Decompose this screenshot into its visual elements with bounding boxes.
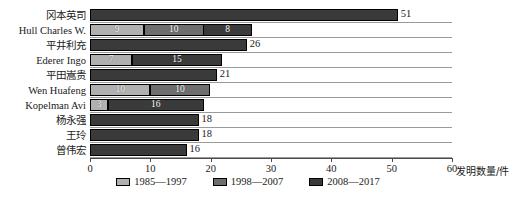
x-axis-tick (150, 158, 151, 162)
bar-row: 18 (90, 113, 452, 128)
category-label: Hull Charles W. (0, 23, 86, 38)
bar-segment[interactable] (90, 129, 199, 141)
stacked-bar[interactable]: 715 (90, 54, 222, 66)
bar-segment[interactable]: 7 (90, 54, 132, 66)
x-axis-tick (271, 158, 272, 162)
bar-segment[interactable] (90, 69, 217, 81)
bar-segment[interactable]: 15 (132, 54, 223, 66)
category-label: Ederer Ingo (0, 53, 86, 68)
bar-row: 26 (90, 38, 452, 53)
segment-value-label: 9 (115, 25, 120, 35)
x-axis-tick-label: 0 (87, 163, 92, 174)
bar-total-label: 16 (187, 143, 201, 155)
bar-row: 1010 (90, 83, 452, 98)
bar-segment[interactable] (90, 39, 247, 51)
legend-item[interactable]: 2008—2017 (309, 176, 380, 187)
stacked-bar[interactable]: 316 (90, 99, 204, 111)
bar-row: 9108 (90, 23, 452, 38)
stacked-bar[interactable] (90, 39, 247, 51)
category-axis-labels: 冈本英司Hull Charles W.平井利充Ederer Ingo平田嵩贵We… (0, 8, 86, 158)
bar-total-label: 51 (398, 8, 412, 20)
legend-item[interactable]: 1985—1997 (116, 176, 187, 187)
category-label: 平井利充 (0, 38, 86, 53)
bar-row: 21 (90, 68, 452, 83)
stacked-bar[interactable] (90, 144, 187, 156)
bar-total-label: 18 (199, 113, 213, 125)
bar-segment[interactable] (90, 114, 199, 126)
category-label: 冈本英司 (0, 8, 86, 23)
legend-swatch (213, 178, 227, 186)
bar-row: 51 (90, 8, 452, 23)
category-label: 王玲 (0, 128, 86, 143)
x-axis-tick-label: 20 (205, 163, 216, 174)
category-label: Kopelman Avi (0, 98, 86, 113)
bar-segment[interactable]: 8 (203, 24, 251, 36)
legend-item[interactable]: 1998—2007 (213, 176, 284, 187)
legend-label: 2008—2017 (327, 176, 380, 187)
segment-value-label: 10 (175, 85, 185, 95)
segment-value-label: 15 (172, 55, 182, 65)
bar-total-label: 26 (247, 38, 261, 50)
stacked-bar[interactable] (90, 114, 199, 126)
stacked-bar[interactable] (90, 129, 199, 141)
chart-legend: 1985—19971998—20072008—2017 (0, 176, 496, 187)
bar-row: 18 (90, 128, 452, 143)
bar-segment[interactable]: 16 (108, 99, 205, 111)
stacked-bar[interactable]: 1010 (90, 84, 210, 96)
segment-value-label: 3 (97, 100, 102, 110)
legend-swatch (116, 178, 130, 186)
stacked-bar[interactable]: 9108 (90, 24, 252, 36)
x-axis-tick (90, 158, 91, 162)
segment-value-label: 10 (169, 25, 179, 35)
stacked-bar[interactable] (90, 9, 398, 21)
bar-segment[interactable]: 10 (90, 84, 150, 96)
category-label: 曾伟宏 (0, 143, 86, 158)
stacked-bar[interactable] (90, 69, 217, 81)
x-axis-tick-label: 50 (386, 163, 397, 174)
x-axis: 0102030405060 (90, 158, 452, 159)
bar-row: 715 (90, 53, 452, 68)
bar-segment[interactable]: 10 (150, 84, 210, 96)
x-axis-tick (392, 158, 393, 162)
bar-total-label: 18 (199, 128, 213, 140)
segment-value-label: 16 (151, 100, 161, 110)
x-axis-tick (211, 158, 212, 162)
x-axis-tick-label: 10 (145, 163, 156, 174)
legend-label: 1985—1997 (134, 176, 187, 187)
category-label: 平田嵩贵 (0, 68, 86, 83)
legend-label: 1998—2007 (231, 176, 284, 187)
x-axis-tick-label: 40 (326, 163, 337, 174)
x-axis-tick (452, 158, 453, 162)
bar-segment[interactable] (90, 9, 398, 21)
segment-value-label: 10 (115, 85, 125, 95)
bar-row: 316 (90, 98, 452, 113)
plot-area: 51910826715211010316181816 (90, 8, 452, 158)
category-label: Wen Huafeng (0, 83, 86, 98)
segment-value-label: 8 (225, 25, 230, 35)
bar-segment[interactable] (90, 144, 187, 156)
segment-value-label: 7 (109, 55, 114, 65)
bar-segment[interactable]: 10 (144, 24, 204, 36)
x-axis-tick (331, 158, 332, 162)
legend-swatch (309, 178, 323, 186)
bar-segment[interactable]: 3 (90, 99, 108, 111)
x-axis-tick-label: 30 (266, 163, 277, 174)
bar-segment[interactable]: 9 (90, 24, 144, 36)
category-label: 杨永强 (0, 113, 86, 128)
bar-row: 16 (90, 143, 452, 158)
bar-total-label: 21 (217, 68, 231, 80)
